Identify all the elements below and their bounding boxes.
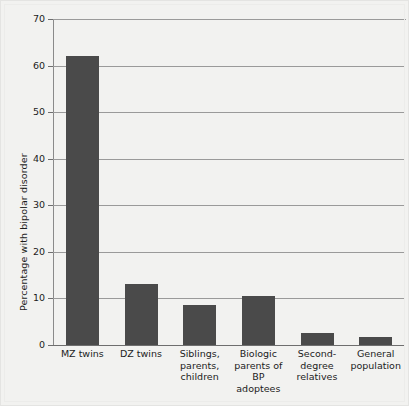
x-tick-label: MZ twins [53,348,112,360]
y-tick-mark-70 [48,19,53,20]
y-tick-mark-30 [48,205,53,206]
bar [125,284,158,345]
plot-area [53,19,405,345]
y-tick-label-10: 10 [5,293,45,303]
x-tick-label: Siblings, parents, children [170,348,229,383]
gridline-40 [53,159,405,160]
bar [66,56,99,345]
bar [359,337,392,345]
bar [183,305,216,345]
x-tick-label: Second- degree relatives [288,348,347,383]
y-tick-mark-50 [48,112,53,113]
y-tick-label-40: 40 [5,154,45,164]
y-tick-label-60: 60 [5,61,45,71]
gridline-10 [53,298,405,299]
gridline-20 [53,252,405,253]
y-tick-mark-0 [48,345,53,346]
chart-page: Percentage with bipolar disorder 0102030… [0,0,409,406]
gridline-50 [53,112,405,113]
bar [301,333,334,345]
y-tick-mark-40 [48,159,53,160]
gridline-70 [53,19,406,20]
bar [242,296,275,345]
y-tick-label-70: 70 [5,14,45,24]
y-axis-line [53,19,54,345]
x-tick-label: General population [346,348,405,371]
gridline-60 [53,66,405,67]
y-tick-mark-20 [48,252,53,253]
y-tick-mark-60 [48,66,53,67]
y-tick-label-30: 30 [5,200,45,210]
x-axis-tick-labels: MZ twinsDZ twinsSiblings, parents, child… [53,348,405,404]
x-tick-label: Biologic parents of BP adoptees [229,348,288,394]
y-tick-label-0: 0 [5,340,45,350]
y-tick-label-20: 20 [5,247,45,257]
x-tick-label: DZ twins [112,348,171,360]
gridline-0 [53,345,405,346]
y-tick-label-50: 50 [5,107,45,117]
gridline-30 [53,205,405,206]
y-tick-mark-10 [48,298,53,299]
